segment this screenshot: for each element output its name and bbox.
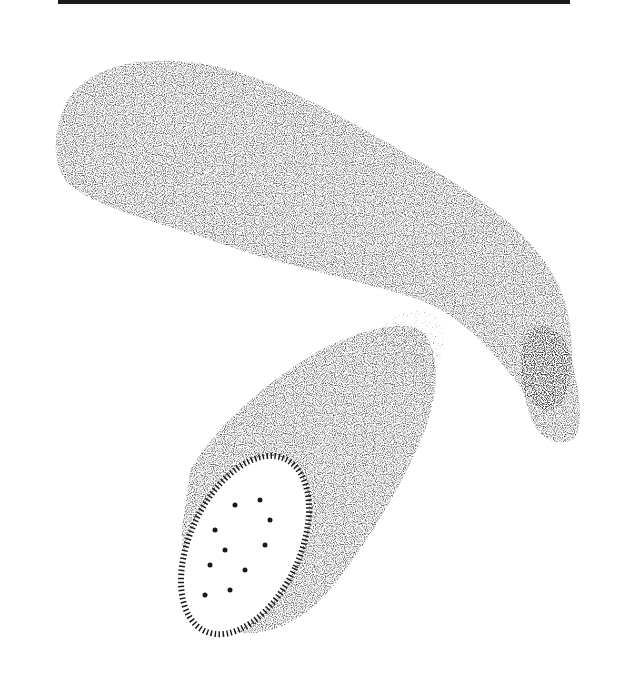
zucchini-illustration: [0, 0, 629, 677]
cut-zucchini: [155, 311, 443, 654]
